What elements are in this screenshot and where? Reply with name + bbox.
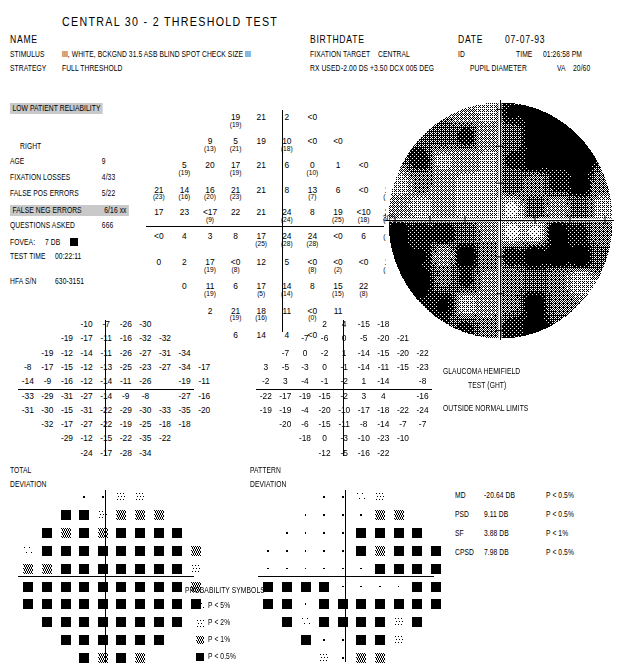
total-deviation-symbol	[98, 653, 108, 663]
prob-symbol-p2-icon	[135, 492, 145, 502]
reliability-row-label: FALSE POS ERRORS	[10, 189, 102, 198]
probability-legend-item: P < 5%	[196, 601, 235, 610]
prob-symbol-p005-icon	[394, 546, 404, 556]
total-deviation-value: -26	[136, 377, 156, 385]
threshold-cell: 22(8)	[351, 283, 377, 297]
total-deviation-value: -25	[136, 420, 156, 428]
prob-symbol-p005-icon	[135, 635, 145, 645]
probability-symbols-title: PROBABILITY SYMBOLS	[185, 586, 265, 595]
total-deviation-symbol	[135, 599, 145, 609]
prob-symbol-normal-icon	[338, 582, 348, 592]
total-deviation-value: -19	[175, 377, 195, 385]
total-deviation-numeric-map: -10-7-26-30-19-17-11-16-32-32-19-12-14-1…	[0, 318, 215, 458]
threshold-retest-value: (23)	[153, 194, 165, 200]
pattern-deviation-value: -14	[374, 420, 394, 428]
threshold-value: <0	[333, 233, 343, 241]
pattern-deviation-symbol	[356, 528, 366, 538]
threshold-cell: 20	[197, 162, 223, 170]
threshold-cell: 21	[248, 162, 274, 170]
prob-symbol-p005-icon	[319, 617, 329, 627]
pattern-deviation-symbol	[263, 546, 273, 556]
pattern-deviation-value: -17	[276, 392, 296, 400]
threshold-cell: 16(20)	[197, 187, 223, 201]
reliability-row-value: 5/22	[102, 189, 115, 198]
pattern-deviation-value: -3	[334, 434, 354, 442]
threshold-value: 0	[182, 283, 187, 291]
threshold-value: 2	[284, 114, 289, 122]
pattern-deviation-value: -7	[295, 334, 315, 342]
prob-symbol-normal-icon	[338, 528, 348, 538]
threshold-cell: <0	[351, 259, 377, 267]
threshold-value: 21	[257, 209, 266, 217]
total-deviation-value: -8	[18, 363, 38, 371]
threshold-cell: <0	[146, 233, 172, 241]
pattern-deviation-value: -6	[315, 334, 335, 342]
threshold-cell: <0	[351, 187, 377, 195]
threshold-retest-value: (20)	[204, 194, 216, 200]
total-deviation-symbol	[98, 599, 108, 609]
total-deviation-value: -29	[38, 392, 58, 400]
total-deviation-symbol	[116, 599, 126, 609]
total-deviation-symbol	[98, 582, 108, 592]
prob-symbol-normal-icon	[282, 528, 292, 538]
pattern-deviation-value: 1	[354, 377, 374, 385]
total-deviation-value: -17	[194, 363, 214, 371]
total-deviation-symbol	[116, 582, 126, 592]
total-deviation-symbol	[172, 582, 182, 592]
threshold-retest-value: (9)	[203, 217, 217, 223]
prob-symbol-p1-icon	[191, 546, 201, 556]
total-deviation-symbol	[61, 564, 71, 574]
stimulus-label: STIMULUS	[10, 50, 45, 59]
total-deviation-symbol	[154, 564, 164, 574]
pattern-deviation-symbol	[282, 528, 292, 538]
prob-symbol-p005-icon	[412, 617, 422, 627]
pattern-deviation-value: 0	[315, 434, 335, 442]
total-deviation-symbol	[135, 635, 145, 645]
test-time-value: 00:22:11	[55, 252, 81, 261]
pattern-deviation-symbol	[394, 510, 404, 520]
total-deviation-value: -11	[116, 377, 136, 385]
prob-symbol-p005-icon	[116, 564, 126, 574]
pattern-deviation-value: -4	[295, 377, 315, 385]
fovea-label: FOVEA:	[10, 238, 35, 247]
threshold-cell: 17(5)	[248, 283, 274, 297]
prob-symbol-p005-icon	[375, 635, 385, 645]
prob-symbol-p1-icon	[98, 653, 108, 663]
pattern-deviation-value: -10	[354, 434, 374, 442]
threshold-retest-value: (8)	[231, 267, 241, 273]
ght-result: OUTSIDE NORMAL LIMITS	[443, 404, 528, 413]
prob-symbol-normal-icon	[263, 546, 273, 556]
prob-symbol-p1-icon	[98, 528, 108, 538]
threshold-value: <0	[154, 233, 164, 241]
pattern-deviation-symbol	[394, 599, 404, 609]
pattern-deviation-symbol	[375, 635, 385, 645]
total-deviation-value: -27	[155, 363, 175, 371]
threshold-cell: <0	[300, 114, 326, 122]
prob-symbol-p005-icon	[42, 546, 52, 556]
pattern-deviation-symbol	[431, 582, 441, 592]
threshold-cell: 6	[223, 283, 249, 291]
pattern-deviation-value: -17	[354, 406, 374, 414]
total-deviation-symbol	[135, 510, 145, 520]
threshold-retest-value: (23)	[230, 194, 242, 200]
pattern-deviation-symbol	[319, 528, 329, 538]
prob-symbol-p5-icon	[196, 602, 204, 610]
pattern-deviation-value: 3	[354, 392, 374, 400]
pattern-deviation-symbol	[394, 546, 404, 556]
total-deviation-value: -22	[96, 420, 116, 428]
prob-symbol-p005-icon	[356, 546, 366, 556]
index-value: 3.88 DB	[484, 529, 509, 538]
total-deviation-value: -13	[96, 363, 116, 371]
prob-symbol-p005-icon	[412, 564, 422, 574]
threshold-cell: 21(23)	[223, 187, 249, 201]
total-deviation-value: -25	[116, 363, 136, 371]
total-deviation-value: -12	[77, 434, 97, 442]
rx-used-value: -2.00 DS +3.50 DCX 005 DEG	[341, 64, 434, 73]
pattern-deviation-symbol	[356, 582, 366, 592]
threshold-value: <0	[333, 138, 343, 146]
prob-symbol-normal-icon	[356, 582, 366, 592]
prob-symbol-p005-icon	[116, 528, 126, 538]
pattern-deviation-value: 0	[295, 349, 315, 357]
pattern-deviation-value: -20	[276, 420, 296, 428]
prob-symbol-p005-icon	[301, 635, 311, 645]
